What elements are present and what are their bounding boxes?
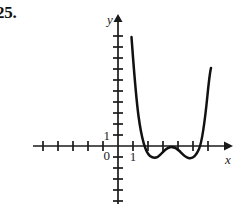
origin-label: 0 (104, 148, 111, 163)
graph-plot: x y 1 0 1 (0, 0, 248, 212)
y-axis-group: y (105, 12, 123, 204)
y-axis-label: y (105, 12, 113, 27)
y-axis-arrow-icon (114, 14, 123, 22)
polynomial-curve (132, 37, 212, 158)
x-axis-unit-label: 1 (130, 149, 137, 164)
x-axis-label: x (224, 152, 231, 167)
figure-container: 25. x (0, 0, 248, 212)
x-axis-arrow-icon (224, 142, 233, 151)
y-axis-unit-label: 1 (104, 128, 111, 143)
